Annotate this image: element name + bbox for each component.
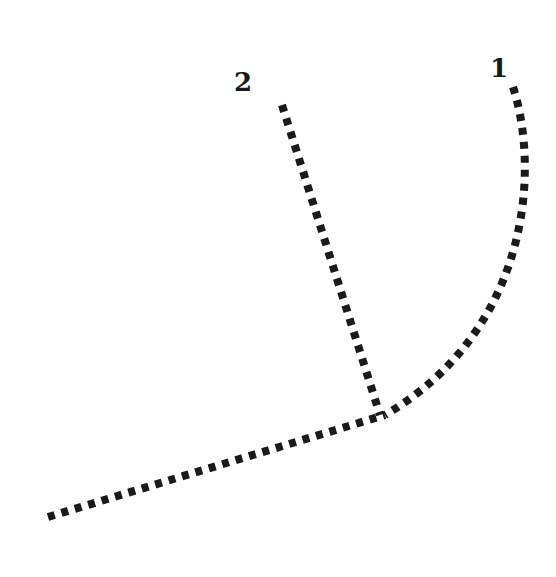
label-path-1: 1 bbox=[490, 53, 508, 83]
label-path-2: 2 bbox=[234, 67, 252, 97]
path-1 bbox=[385, 87, 525, 415]
base-path bbox=[48, 415, 385, 517]
path-2 bbox=[282, 105, 380, 415]
diagram-canvas: 2 1 bbox=[0, 0, 556, 577]
